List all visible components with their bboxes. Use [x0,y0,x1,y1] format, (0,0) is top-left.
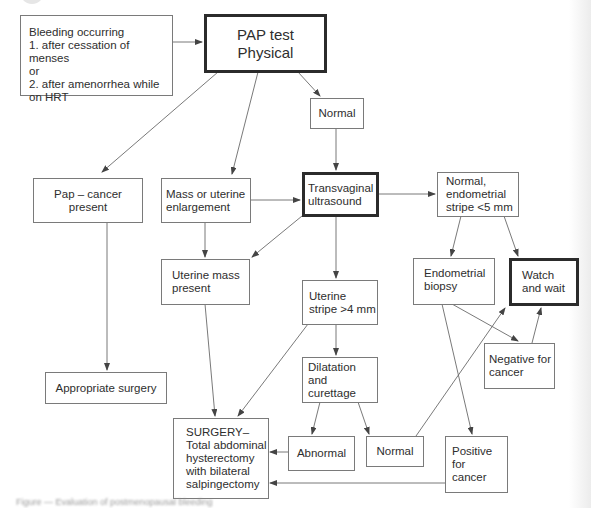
edge-biopsy-negative [452,304,518,341]
node-negative-label: Negative for cancer [485,353,551,379]
edge-dilatation-abnormal [312,402,320,434]
node-uterine-mass: Uterine mass present [161,259,250,305]
node-normal-bottom-label: Normal [376,445,413,458]
node-uterine-mass-label: Uterine mass present [162,269,240,295]
node-abnormal-label: Abnormal [297,447,346,460]
node-negative: Negative for cancer [484,343,555,389]
node-dilatation: Dilatation and curettage [302,357,378,403]
edge-transvaginal-uterinemass [252,216,302,257]
node-appropriate-surgery: Appropriate surgery [45,372,167,404]
node-endometrial-biopsy-label: Endometrial biopsy [414,267,485,293]
node-bleeding: Bleeding occurring 1. after cessation of… [20,15,173,96]
node-mass-enlargement: Mass or uterine enlargement [161,178,251,223]
node-normal-stripe: Normal, endometrial stripe <5 mm [437,172,519,217]
node-endometrial-biopsy: Endometrial biopsy [413,258,495,305]
edge-pap-mass [232,72,258,174]
node-positive-label: Positive for cancer [446,445,507,484]
node-abnormal: Abnormal [288,436,355,471]
node-surgery-label: SURGERY– Total abdominal hysterectomy wi… [174,426,267,491]
edge-negative-watch [532,308,541,343]
edge-uterinemass-surgery [205,304,215,416]
node-surgery: SURGERY– Total abdominal hysterectomy wi… [173,418,269,499]
node-uterine-stripe: Uterine stripe >4 mm [302,280,378,325]
node-mass-enlargement-label: Mass or uterine enlargement [162,188,245,214]
edge-dilatation-normal [358,402,369,434]
node-normal-stripe-label: Normal, endometrial stripe <5 mm [438,175,513,214]
node-normal-bottom: Normal [366,436,424,467]
edge-normalstripe-biopsy [451,216,461,256]
node-watch-wait-label: Watch and wait [512,269,565,295]
edge-normalstripe-watch [504,216,518,256]
node-uterine-stripe-label: Uterine stripe >4 mm [303,290,376,316]
node-transvaginal: Transvaginal ultrasound [302,172,379,217]
node-positive: Positive for cancer [445,436,508,493]
node-pap-cancer-label: Pap – cancer present [34,188,142,214]
node-appropriate-surgery-label: Appropriate surgery [56,382,157,395]
node-dilatation-label: Dilatation and curettage [303,361,377,400]
figure-caption: Figure — Evaluation of postmenopausal bl… [16,497,213,507]
node-watch-wait: Watch and wait [509,258,579,306]
node-pap-cancer: Pap – cancer present [33,178,143,223]
node-pap-test-label: PAP test Physical [237,26,294,62]
node-transvaginal-label: Transvaginal ultrasound [305,182,373,208]
node-normal-top-label: Normal [318,107,355,120]
edge-biopsy-positive [442,304,472,434]
node-normal-top: Normal [310,98,364,129]
edge-pap-normal [298,72,320,96]
node-pap-test: PAP test Physical [204,14,327,73]
edge-uterinestripe-surgery [238,324,308,416]
node-bleeding-label: Bleeding occurring 1. after cessation of… [21,26,172,104]
